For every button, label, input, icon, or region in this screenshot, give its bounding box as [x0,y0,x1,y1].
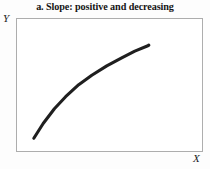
y-axis-label: Y [3,13,9,24]
chart-figure: a. Slope: positive and decreasing Y X [0,0,210,169]
curve-plot [17,19,204,153]
x-axis-label: X [193,153,200,164]
chart-title: a. Slope: positive and decreasing [0,1,210,12]
data-curve-line [34,45,149,138]
plot-area [16,18,203,152]
